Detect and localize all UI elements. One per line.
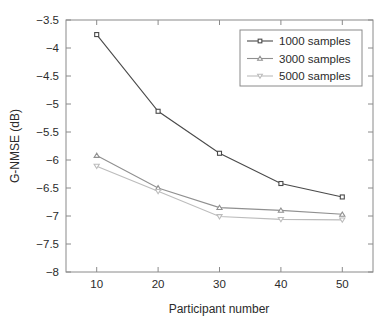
data-point <box>94 153 99 157</box>
x-tick-label: 10 <box>90 278 103 290</box>
x-axis-title: Participant number <box>169 302 270 316</box>
data-point <box>279 182 283 186</box>
chart-legend: 1000 samples3000 samples5000 samples <box>240 30 362 86</box>
legend-marker <box>258 39 262 43</box>
y-tick-label: −7.5 <box>36 238 59 250</box>
line-chart: −3.5−4−4.5−5−5.5−6−6.5−7−7.5−8 102030405… <box>0 0 391 328</box>
y-tick-label: −8 <box>46 266 59 278</box>
data-point <box>340 218 345 222</box>
x-tick-label: 40 <box>275 278 288 290</box>
data-point <box>94 164 99 168</box>
x-tick-label: 30 <box>213 278 226 290</box>
data-point <box>278 208 283 212</box>
series-3000-samples <box>94 153 345 216</box>
data-point <box>217 215 222 219</box>
x-tick-label: 50 <box>336 278 349 290</box>
y-tick-label: −4.5 <box>36 70 59 82</box>
y-tick-label: −3.5 <box>36 14 59 26</box>
data-point <box>156 109 160 113</box>
data-point <box>340 212 345 216</box>
chart-figure: −3.5−4−4.5−5−5.5−6−6.5−7−7.5−8 102030405… <box>0 0 391 328</box>
legend-label: 3000 samples <box>279 53 351 65</box>
y-tick-label: −6.5 <box>36 182 59 194</box>
series-5000-samples <box>94 164 345 222</box>
data-point <box>218 151 222 155</box>
data-point <box>217 205 222 209</box>
data-point <box>278 217 283 221</box>
x-tick-label: 20 <box>152 278 165 290</box>
y-axis-title: G-NMSE (dB) <box>8 109 22 183</box>
data-point <box>95 33 99 37</box>
y-tick-label: −7 <box>46 210 59 222</box>
y-tick-label: −6 <box>46 154 59 166</box>
data-point <box>156 189 161 193</box>
legend-label: 1000 samples <box>279 35 351 47</box>
y-tick-label: −4 <box>46 42 60 54</box>
data-point <box>340 195 344 199</box>
y-tick-label: −5 <box>46 98 59 110</box>
y-tick-label: −5.5 <box>36 126 59 138</box>
legend-label: 5000 samples <box>279 70 351 82</box>
